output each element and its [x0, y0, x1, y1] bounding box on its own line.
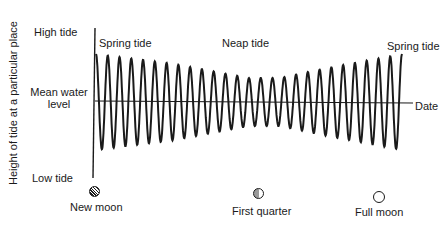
- y-axis-line: [93, 28, 95, 178]
- first-quarter-icon: [253, 188, 264, 199]
- full-moon-icon: [373, 191, 385, 203]
- first-quarter-label: First quarter: [232, 205, 291, 217]
- new-moon-label: New moon: [70, 201, 123, 213]
- full-moon-label: Full moon: [355, 206, 403, 218]
- mean-water-line: [95, 101, 413, 103]
- new-moon-icon: [89, 186, 100, 197]
